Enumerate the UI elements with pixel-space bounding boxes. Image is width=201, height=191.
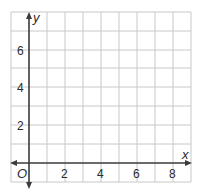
x-tick-label: 2 [61, 167, 68, 181]
x-tick-label: 8 [169, 167, 176, 181]
x-axis-label: x [181, 147, 189, 162]
y-tick-label: 2 [17, 119, 24, 133]
x-tick-label: 4 [97, 167, 104, 181]
y-axis-up-arrow-icon [26, 12, 32, 19]
grid-lines [11, 12, 191, 182]
y-axis-down-arrow-icon [26, 182, 32, 189]
origin-label: O [17, 166, 27, 181]
x-tick-label: 6 [133, 167, 140, 181]
y-tick-label: 4 [17, 81, 24, 95]
coordinate-grid: y x O 2 4 6 8 2 4 6 [0, 0, 201, 191]
y-tick-label: 6 [17, 44, 24, 58]
